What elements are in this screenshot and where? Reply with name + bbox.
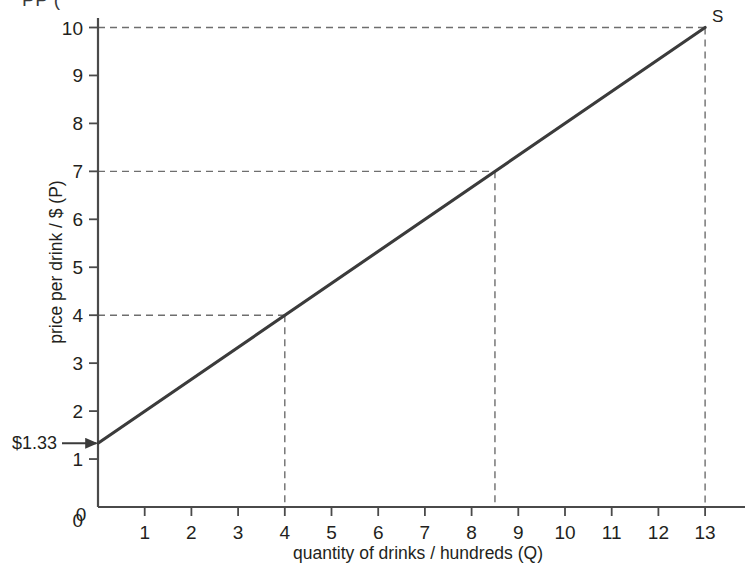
guide-lines-group [98,28,705,508]
x-axis-tick-label: 3 [233,522,244,543]
x-axis-tick-label: 13 [695,522,716,543]
x-axis-tick-label: 8 [466,522,477,543]
x-axis-tick-label: 4 [280,522,291,543]
y-axis-tick-label: 1 [72,449,83,470]
x-axis-tick-labels-group: 012345678910111213 [76,504,716,543]
x-axis-tick-label: 2 [186,522,197,543]
y-axis-tick-label: 7 [72,161,83,182]
supply-curve-chart: PP ( 012345678910111213 012345678910 $1. [0,0,753,571]
y-axis-title: price per drink / $ (P) [46,180,66,343]
y-axis-tick-label: 4 [72,305,83,326]
y-axis-ticks-group [89,28,98,460]
supply-curve-line [98,28,705,444]
y-axis-tick-label: 6 [72,209,83,230]
chart-canvas: 012345678910111213 012345678910 $1.33 S … [0,0,753,571]
x-axis-title: quantity of drinks / hundreds (Q) [293,543,543,563]
y-axis-tick-label: 5 [72,257,83,278]
x-axis-ticks-group [145,507,705,516]
intercept-annotation-label: $1.33 [12,433,57,453]
x-axis-tick-label: 1 [139,522,150,543]
y-axis-tick-label: 2 [72,401,83,422]
y-axis-tick-label: 9 [72,65,83,86]
axes-group [98,18,745,507]
x-axis-tick-label: 5 [326,522,337,543]
supply-curve-label: S [712,7,723,26]
x-axis-tick-label: 12 [648,522,669,543]
data-series-group [98,28,705,444]
x-axis-tick-label: 10 [554,522,575,543]
y-axis-tick-label: 8 [72,113,83,134]
x-axis-tick-label: 11 [602,522,622,543]
y-axis-tick-label: 3 [72,353,83,374]
annotations-group: $1.33 S [12,7,723,454]
x-axis-tick-label: 7 [420,522,431,543]
x-axis-tick-label: 9 [513,522,524,543]
y-axis-tick-label: 10 [62,18,83,39]
y-axis-tick-label: 0 [72,510,83,531]
x-axis-tick-label: 6 [373,522,384,543]
